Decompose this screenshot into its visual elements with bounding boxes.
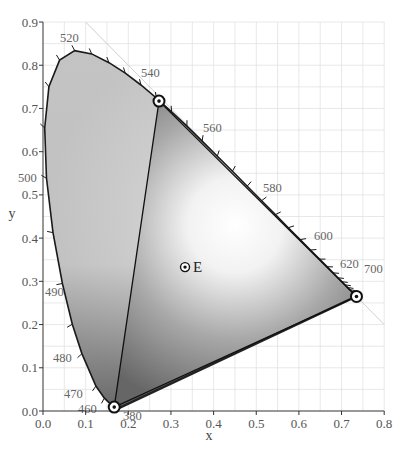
y-tick-label: 0.9	[22, 15, 38, 30]
x-tick-label: 0.3	[163, 416, 179, 431]
green-primary-marker	[154, 96, 165, 107]
x-tick-label: 0.2	[120, 416, 136, 431]
x-tick-label: 0.8	[376, 416, 392, 431]
y-tick-label: 0.0	[22, 404, 38, 419]
y-tick-label: 0.2	[22, 317, 38, 332]
wavelength-label-620: 620	[340, 257, 359, 271]
chromaticity-chart: 380460470480490500520540560580600620700 …	[0, 0, 405, 454]
y-axis-title: y	[9, 206, 16, 221]
wavelength-label-700: 700	[364, 262, 383, 276]
x-axis-title: x	[206, 428, 213, 443]
y-tick-label: 0.5	[22, 187, 38, 202]
y-tick-label: 0.3	[22, 274, 38, 289]
x-tick-label: 0.1	[78, 416, 94, 431]
wavelength-label-600: 600	[314, 229, 333, 243]
wavelength-label-540: 540	[141, 66, 160, 80]
white-point-label: E	[193, 259, 202, 275]
blue-primary-marker	[109, 402, 120, 413]
y-tick-label: 0.7	[22, 101, 39, 116]
x-tick-label: 0.7	[333, 416, 350, 431]
wavelength-label-520: 520	[60, 31, 79, 45]
y-tick-label: 0.6	[22, 144, 39, 159]
wavelength-label-580: 580	[263, 181, 282, 195]
wavelength-label-480: 480	[53, 351, 72, 365]
x-tick-label: 0.6	[291, 416, 308, 431]
wavelength-label-560: 560	[203, 121, 222, 135]
wavelength-label-490: 490	[45, 285, 64, 299]
wavelength-label-500: 500	[18, 171, 37, 185]
x-tick-label: 0.5	[248, 416, 264, 431]
y-tick-label: 0.4	[22, 231, 39, 246]
y-tick-label: 0.8	[22, 58, 38, 73]
white-point-marker	[181, 263, 190, 272]
wavelength-label-460: 460	[78, 402, 97, 416]
y-tick-label: 0.1	[22, 360, 38, 375]
red-primary-marker	[351, 291, 362, 302]
spectral-locus-region: 380460470480490500520540560580600620700	[18, 31, 383, 423]
wavelength-label-470: 470	[64, 387, 83, 401]
